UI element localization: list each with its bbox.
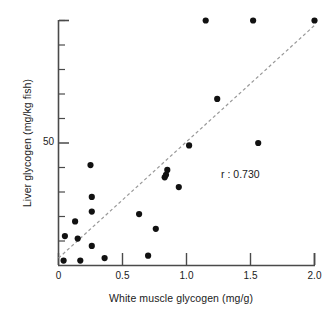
data-point: [61, 258, 67, 264]
scatter-plot-figure: Liver glycogen (mg/kg fish) White muscle…: [0, 0, 333, 318]
data-point: [87, 162, 93, 168]
data-point: [255, 140, 261, 146]
data-point: [214, 96, 220, 102]
data-point: [203, 17, 209, 23]
x-tick-label: 1.0: [172, 270, 202, 281]
data-point: [145, 253, 151, 259]
data-point: [77, 258, 83, 264]
x-tick-label: 0.5: [108, 270, 138, 281]
axis-spines: [58, 20, 315, 266]
data-point: [89, 194, 95, 200]
data-point: [250, 17, 256, 23]
correlation-annotation: r : 0.730: [221, 168, 260, 180]
x-tick-label: 0: [44, 270, 74, 281]
x-tick-label: 2.0: [300, 270, 330, 281]
data-point: [164, 167, 170, 173]
data-point: [153, 226, 159, 232]
data-point: [89, 209, 95, 215]
data-point: [176, 184, 182, 190]
data-point: [62, 233, 68, 239]
data-point: [311, 17, 317, 23]
data-point: [136, 211, 142, 217]
data-point: [89, 243, 95, 249]
data-point: [75, 236, 81, 242]
data-point: [102, 255, 108, 261]
data-point-series: [61, 17, 318, 263]
data-point: [186, 142, 192, 148]
regression-trendline: [59, 25, 315, 258]
data-point: [72, 218, 78, 224]
y-axis-tick-marks: [59, 21, 69, 242]
x-axis-tick-marks: [59, 253, 315, 265]
y-tick-label: 50: [26, 136, 54, 147]
x-tick-label: 1.5: [236, 270, 266, 281]
x-axis-title: White muscle glycogen (mg/g): [56, 292, 306, 304]
axis-end-caps: [59, 21, 315, 266]
